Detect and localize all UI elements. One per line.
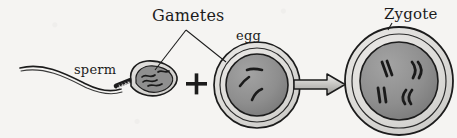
egg-nucleus	[226, 54, 288, 116]
label-sperm: sperm	[74, 62, 116, 77]
fertilization-diagram: Gametes egg sperm Zygote	[0, 0, 457, 138]
plus-operator	[186, 73, 207, 94]
label-egg: egg	[236, 28, 261, 43]
transformation-arrow	[294, 74, 345, 95]
label-zygote: Zygote	[384, 5, 438, 23]
sperm-nucleus	[136, 66, 173, 93]
label-gametes: Gametes	[152, 6, 224, 25]
sperm-midpiece	[116, 80, 131, 89]
leader-gametes-to-egg	[186, 30, 226, 62]
zygote-cell	[345, 27, 453, 135]
egg-cell	[214, 42, 300, 128]
leader-gametes-to-sperm	[155, 30, 186, 70]
zygote-nucleus	[360, 42, 438, 120]
